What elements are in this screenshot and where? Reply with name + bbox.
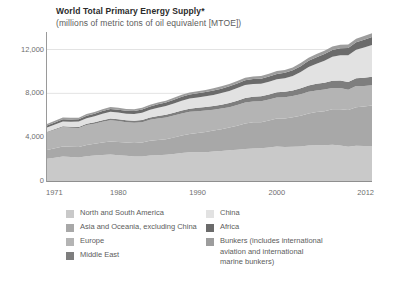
chart-title: World Total Primary Energy Supply* — [56, 6, 205, 16]
legend-label-africa: Africa — [220, 222, 386, 233]
legend-label-asia_oceania_excl_china: Asia and Oceania, excluding China — [80, 222, 216, 233]
legend-swatch-asia_oceania_excl_china — [66, 224, 74, 232]
legend-swatch-africa — [206, 224, 214, 232]
legend-label-europe: Europe — [80, 236, 216, 247]
stacked-area-svg — [47, 32, 372, 181]
y-axis-line — [46, 32, 47, 182]
legend-swatch-europe — [66, 238, 74, 246]
y-tick-label: 8,000 — [0, 88, 44, 97]
legend-item-north_and_south_america[interactable]: North and South America — [66, 208, 216, 222]
x-axis-line — [47, 181, 372, 182]
legend-label-middle_east: Middle East — [80, 250, 216, 261]
legend-column-left: North and South AmericaAsia and Oceania,… — [66, 208, 216, 264]
legend-swatch-china — [206, 210, 214, 218]
legend-item-bunkers[interactable]: Bunkers (includes international aviation… — [206, 236, 386, 268]
x-tick-label: 1990 — [186, 188, 210, 197]
x-tick-label: 1971 — [46, 188, 63, 197]
y-tick-label: 12,000 — [0, 45, 44, 54]
x-tick-label: 2012 — [352, 188, 374, 197]
chart-figure: World Total Primary Energy Supply* (mill… — [0, 0, 394, 283]
legend-swatch-north_and_south_america — [66, 210, 74, 218]
legend-label-north_and_south_america: North and South America — [80, 208, 216, 219]
y-tick-label: 0 — [0, 176, 44, 185]
legend-label-china: China — [220, 208, 386, 219]
legend-item-middle_east[interactable]: Middle East — [66, 250, 216, 264]
x-tick-label: 2000 — [265, 188, 289, 197]
legend-swatch-bunkers — [206, 238, 214, 246]
x-tick-label: 1980 — [106, 188, 130, 197]
legend-column-right: ChinaAfricaBunkers (includes internation… — [206, 208, 386, 268]
y-tick-label: 4,000 — [0, 132, 44, 141]
legend-label-bunkers: Bunkers (includes international aviation… — [220, 236, 386, 268]
legend-item-europe[interactable]: Europe — [66, 236, 216, 250]
legend-swatch-middle_east — [66, 252, 74, 260]
plot-area — [47, 32, 372, 181]
legend-item-asia_oceania_excl_china[interactable]: Asia and Oceania, excluding China — [66, 222, 216, 236]
legend-item-africa[interactable]: Africa — [206, 222, 386, 236]
y-axis-tick-labels: 04,0008,00012,000 — [0, 0, 44, 283]
legend-item-china[interactable]: China — [206, 208, 386, 222]
chart-subtitle: (millions of metric tons of oil equivale… — [56, 18, 241, 28]
